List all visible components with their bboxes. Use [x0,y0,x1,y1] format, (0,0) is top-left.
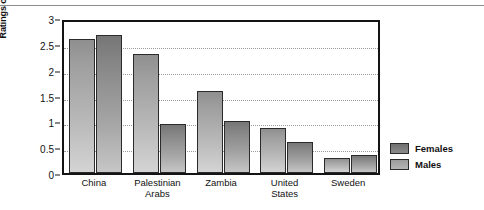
bar-females-united-states[interactable] [260,128,286,173]
x-axis-category-labels: ChinaPalestinianArabsZambiaUnitedStatesS… [62,177,380,210]
y-axis-tick-label: 1 [48,118,54,129]
y-axis-tick-label: 0.5 [40,144,54,155]
y-axis-tick-mark [55,175,60,176]
bar-females-palestinian-arabs[interactable] [133,54,159,173]
bar-group [260,22,313,173]
x-axis-label-palestinian-arabs: PalestinianArabs [126,177,190,199]
bar-males-sweden[interactable] [351,155,377,173]
bar-chart-figure: Ratings of importance 00.511.522.53 Chin… [0,0,484,210]
y-axis-tick-label: 1.5 [40,92,54,103]
legend-label-males: Males [415,159,441,170]
bar-males-zambia[interactable] [224,121,250,173]
y-axis-tick-mark [55,20,60,21]
chart-legend: Females Males [390,143,453,170]
y-axis-tick-label: 0 [48,170,54,181]
bar-males-united-states[interactable] [287,142,313,173]
y-axis-tick-mark [55,149,60,150]
y-axis-tick-mark [55,97,60,98]
legend-label-females: Females [415,143,453,154]
y-axis-ticks: 00.511.522.53 [28,20,60,175]
y-axis-tick-label: 3 [48,15,54,26]
bar-females-sweden[interactable] [324,158,350,174]
y-axis-tick-mark [55,45,60,46]
y-axis-tick-label: 2 [48,66,54,77]
legend-swatch-females-icon [390,143,409,154]
y-axis-tick-mark [55,123,60,124]
legend-item-females[interactable]: Females [390,143,453,154]
bar-group [133,22,186,173]
bar-group [69,22,122,173]
y-axis-tick-mark [55,71,60,72]
y-axis-tick-label: 2.5 [40,40,54,51]
y-axis-title: Ratings of importance [0,0,8,52]
bar-group [324,22,377,173]
top-divider-rule [0,5,484,6]
bar-females-china[interactable] [69,39,95,173]
legend-item-males[interactable]: Males [390,159,453,170]
bar-males-china[interactable] [96,35,122,173]
x-axis-label-united-states: UnitedStates [253,177,317,199]
legend-swatch-males-icon [390,159,409,170]
bars-layer [64,22,378,173]
bar-males-palestinian-arabs[interactable] [160,124,186,173]
x-axis-label-zambia: Zambia [189,177,253,188]
bar-group [197,22,250,173]
x-axis-label-sweden: Sweden [316,177,380,188]
plot-area [62,20,380,175]
bar-females-zambia[interactable] [197,91,223,173]
x-axis-label-china: China [62,177,126,188]
